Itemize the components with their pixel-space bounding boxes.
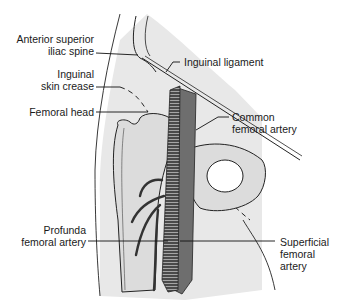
obturator-foramen — [207, 160, 243, 192]
label-anterior-superior-iliac-spine: Anterior superior iliac spine — [4, 33, 94, 57]
label-common-femoral-artery: Common femoral artery — [232, 111, 297, 135]
label-profunda-femoral-artery: Profunda femoral artery — [0, 224, 86, 248]
label-femoral-head: Femoral head — [4, 106, 94, 118]
label-superficial-femoral-artery: Superficial femoral artery — [280, 236, 329, 272]
label-inguinal-skin-crease: Inguinal skin crease — [4, 68, 94, 92]
label-inguinal-ligament: Inguinal ligament — [184, 56, 263, 68]
